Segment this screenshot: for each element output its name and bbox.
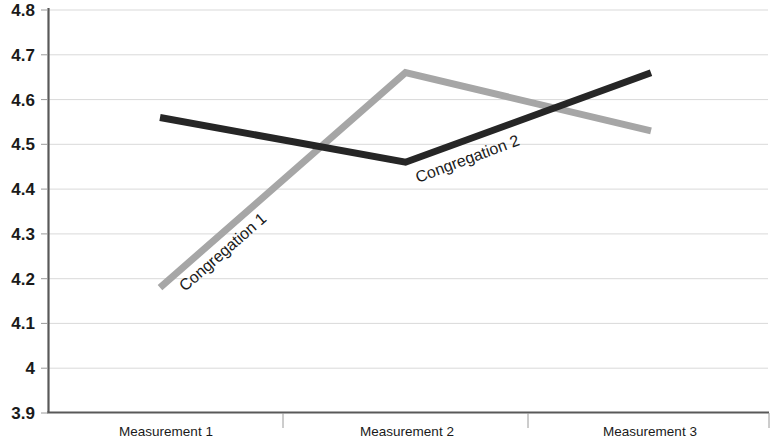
x-category-label-3: Measurement 3 xyxy=(603,424,697,439)
x-axis-labels: Measurement 1 Measurement 2 Measurement … xyxy=(119,424,697,439)
y-tick-label-4-3: 4.3 xyxy=(11,225,35,244)
x-category-label-2: Measurement 2 xyxy=(360,424,454,439)
y-tick-label-3-9: 3.9 xyxy=(11,404,35,423)
y-tick-label-4-4: 4.4 xyxy=(11,180,35,199)
chart-background xyxy=(0,0,775,441)
y-tick-label-4-5: 4.5 xyxy=(11,135,35,154)
y-tick-label-4-7: 4.7 xyxy=(11,46,35,65)
line-chart: 4.8 4.7 4.6 4.5 4.4 4.3 4.2 4.1 4 3.9 Me… xyxy=(0,0,775,441)
y-tick-label-4-8: 4.8 xyxy=(11,1,35,20)
chart-canvas: 4.8 4.7 4.6 4.5 4.4 4.3 4.2 4.1 4 3.9 Me… xyxy=(0,0,775,441)
y-tick-label-4-2: 4.2 xyxy=(11,270,35,289)
y-tick-label-4-0: 4 xyxy=(26,359,36,378)
y-tick-label-4-6: 4.6 xyxy=(11,91,35,110)
x-category-label-1: Measurement 1 xyxy=(119,424,213,439)
y-tick-label-4-1: 4.1 xyxy=(11,314,35,333)
